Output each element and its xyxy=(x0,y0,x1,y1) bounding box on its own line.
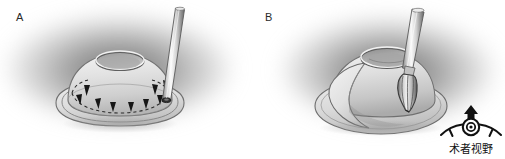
apex-opening-a xyxy=(96,51,144,71)
viewpoint-caption: 术者视野 xyxy=(440,144,502,156)
eye-pupil-icon xyxy=(463,119,479,135)
surgeon-eye-icon xyxy=(440,104,502,144)
contact-shadow-b xyxy=(319,120,443,136)
figure-root: A xyxy=(0,0,505,159)
panel-a: A xyxy=(0,0,253,159)
contact-shadow-a xyxy=(62,115,178,133)
up-arrow-icon xyxy=(464,105,478,119)
panel-a-artwork xyxy=(0,0,253,159)
viewpoint-marker: 术者视野 xyxy=(440,104,502,156)
